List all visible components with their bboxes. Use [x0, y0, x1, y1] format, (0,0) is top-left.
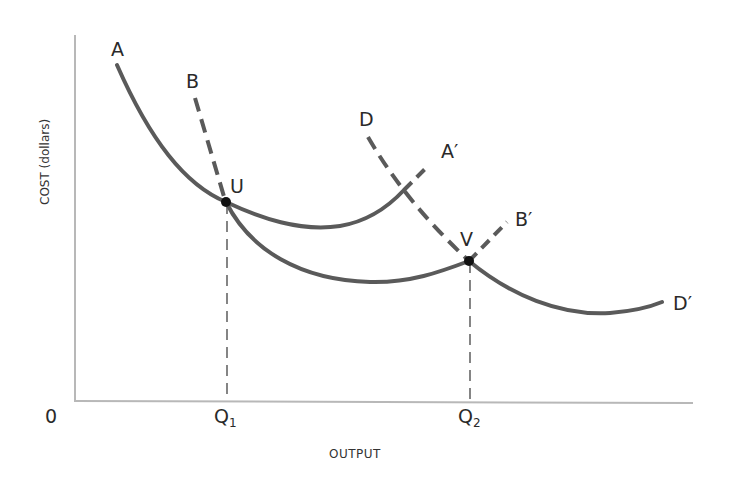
label-a: A [111, 40, 124, 59]
label-d-prime: D′ [673, 294, 692, 313]
curve-b-solid [226, 202, 469, 282]
q1-subscript: 1 [229, 416, 237, 430]
curve-b-dashed-end [469, 222, 507, 261]
q2-subscript: 2 [473, 416, 481, 430]
label-u: U [230, 177, 244, 196]
curve-a-solid [117, 65, 404, 227]
origin-label: 0 [45, 407, 57, 426]
curve-a-dashed [404, 168, 426, 190]
q1-text: Q [214, 405, 229, 427]
x-axis [74, 401, 693, 403]
label-d: D [359, 110, 374, 129]
y-axis-title: COST (dollars) [38, 119, 52, 205]
label-b: B [186, 72, 199, 91]
curve-d-solid [469, 261, 662, 313]
q2-text: Q [458, 405, 473, 427]
cost-curve-diagram [0, 0, 731, 482]
label-v: V [460, 230, 473, 249]
label-b-prime: B′ [515, 210, 532, 229]
q1-label: Q1 [214, 407, 237, 429]
label-a-prime: A′ [441, 142, 458, 161]
point-v [464, 256, 474, 266]
q2-label: Q2 [458, 407, 481, 429]
x-axis-title: OUTPUT [329, 447, 381, 461]
point-u [221, 197, 231, 207]
